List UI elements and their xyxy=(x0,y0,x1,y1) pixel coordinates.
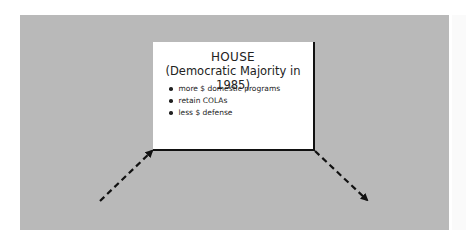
house-box: HOUSE (Democratic Majority in 1985) more… xyxy=(153,42,315,151)
bullet-icon xyxy=(169,99,173,103)
bullet-icon xyxy=(169,111,173,115)
bullet-list: more $ domestic programs retain COLAs le… xyxy=(169,83,280,119)
arrow-left-into-box xyxy=(100,151,152,201)
arrow-right-out-of-box xyxy=(315,151,367,200)
bullet-icon xyxy=(169,87,173,91)
box-title: HOUSE xyxy=(153,50,313,64)
bullet-item: more $ domestic programs xyxy=(169,83,280,95)
bullet-item: less $ defense xyxy=(169,107,280,119)
bullet-item: retain COLAs xyxy=(169,95,280,107)
